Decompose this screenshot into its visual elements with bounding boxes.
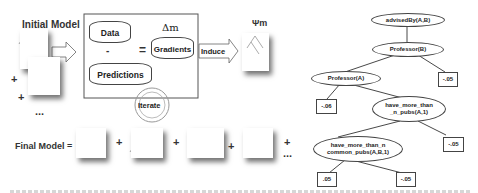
induce-label: Induce <box>201 47 225 56</box>
tree-leaf: -.05 <box>443 137 464 152</box>
predictions-cylinder: Predictions <box>89 63 152 85</box>
psi-tree-image <box>242 33 269 71</box>
delta-label: Δm <box>162 22 179 33</box>
plus-sign: + <box>173 136 179 148</box>
plus-sign: + <box>116 136 122 148</box>
node-text-line: have_more_than <box>385 102 433 109</box>
tree-node-root: advisedBy(A,B) <box>371 13 445 27</box>
psi-label: Ψm <box>252 18 267 28</box>
equals-sign: = <box>139 43 146 57</box>
final-tree-image-4 <box>243 128 273 158</box>
ellipsis: ... <box>35 105 44 117</box>
tree-node-professor-a: Professor(A) <box>311 71 381 86</box>
plus-sign: + <box>228 140 234 152</box>
tree-node-professor-b: Professor(B) <box>372 42 444 57</box>
gradients-cylinder: Gradients <box>151 37 194 59</box>
tree-node-more-pubs: have_more_than _n_pubs(A,1) <box>372 96 446 122</box>
final-model-label: Final Model = <box>15 141 72 151</box>
tree-node-common-pubs: have_more_than_n common_pubs(A,B,1) <box>313 136 403 162</box>
iterate-label: Iterate <box>138 101 161 110</box>
final-tree-image-2 <box>131 128 163 158</box>
node-text-line: common_pubs(A,B,1) <box>327 149 389 156</box>
ellipsis: ... <box>283 147 292 159</box>
tree-leaf: -.06 <box>316 99 337 114</box>
truncated-caption <box>10 190 470 193</box>
initial-tree-image-2 <box>28 57 60 95</box>
final-tree-image-1 <box>76 128 106 158</box>
tree-leaf: -.05 <box>438 72 458 87</box>
node-text-line: have_more_than_n <box>331 142 386 149</box>
tree-leaf: .05 <box>317 172 337 187</box>
tree-leaf: -.05 <box>396 172 416 187</box>
plus-sign: + <box>18 91 24 103</box>
node-text-line: _n_pubs(A,1) <box>390 109 428 116</box>
minus-sign: - <box>106 45 109 56</box>
data-cylinder: Data <box>89 21 131 43</box>
final-tree-image-3 <box>187 128 224 158</box>
plus-sign: + <box>11 73 17 85</box>
